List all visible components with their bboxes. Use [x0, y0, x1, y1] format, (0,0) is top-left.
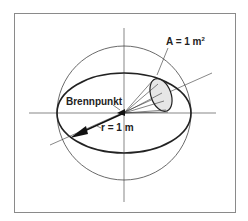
- area-label: A = 1 m2: [166, 36, 205, 47]
- focus-label: Brennpunkt: [66, 96, 122, 107]
- sphere-diagram: [0, 0, 248, 221]
- radius-label: r = 1 m: [101, 122, 134, 133]
- area-label-exponent: 2: [201, 36, 204, 42]
- arrowhead-icon: [70, 126, 88, 138]
- area-patch: [146, 76, 176, 115]
- area-label-text: A = 1 m: [166, 36, 201, 47]
